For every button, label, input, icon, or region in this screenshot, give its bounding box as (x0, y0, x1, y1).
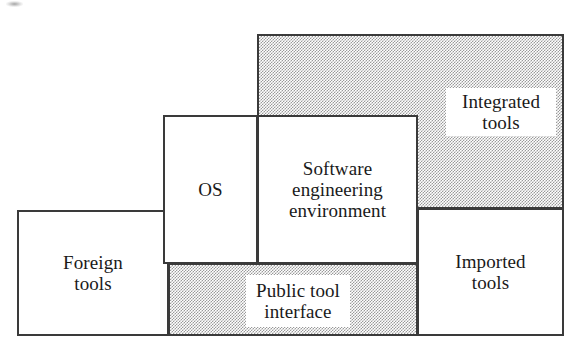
block-software-engineering-environment: Software engineering environment (257, 115, 418, 264)
foreign-tools-line-2: tools (63, 273, 123, 294)
foreign-tools-line-1: Foreign (63, 252, 123, 273)
block-imported-tools: Imported tools (417, 208, 564, 336)
block-public-tool-interface: Public tool interface (168, 263, 418, 336)
imported-tools-line-1: Imported (455, 251, 525, 272)
diagram-canvas: Integrated tools Public tool interface F… (0, 0, 580, 352)
see-line-1: Software (289, 158, 386, 179)
block-integrated-tools-label: Integrated tools (446, 88, 556, 136)
integrated-tools-line-1: Integrated (462, 91, 540, 112)
block-public-tool-interface-label: Public tool interface (246, 275, 350, 327)
os-line-1: OS (198, 179, 223, 200)
scan-artifact-smudge (6, 1, 23, 7)
integrated-tools-line-2: tools (462, 112, 540, 133)
block-foreign-tools: Foreign tools (17, 210, 169, 336)
public-tool-interface-line-1: Public tool (256, 280, 340, 301)
public-tool-interface-line-2: interface (256, 301, 340, 322)
imported-tools-line-2: tools (455, 272, 525, 293)
see-line-2: engineering (289, 179, 386, 200)
see-line-3: environment (289, 200, 386, 221)
block-os: OS (163, 115, 258, 264)
